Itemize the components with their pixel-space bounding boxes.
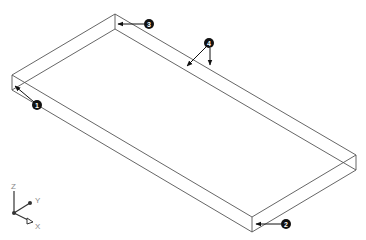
y-axis-tip-icon [28,201,32,205]
callout-1: 1 [15,86,42,110]
callout-1-label: 1 [35,102,39,109]
callout-4-label: 4 [207,40,211,47]
axis-triad: Z Y X [11,182,41,231]
axis-label-z: Z [11,182,16,191]
diagram-canvas: 1 3 4 2 Z Y X [0,0,366,240]
callout-4: 4 [187,38,214,66]
callout-3: 3 [118,19,154,29]
origin-dot [12,211,16,215]
top-face [12,14,356,217]
axis-label-x: X [35,222,41,231]
callout-3-label: 3 [147,21,151,28]
bottom-face [12,29,356,232]
callout-2: 2 [256,219,291,229]
box-wireframe [12,14,356,232]
callout-2-label: 2 [284,221,288,228]
axis-label-y: Y [35,196,41,205]
x-axis-arrow-icon [27,218,33,224]
y-axis [14,203,30,213]
